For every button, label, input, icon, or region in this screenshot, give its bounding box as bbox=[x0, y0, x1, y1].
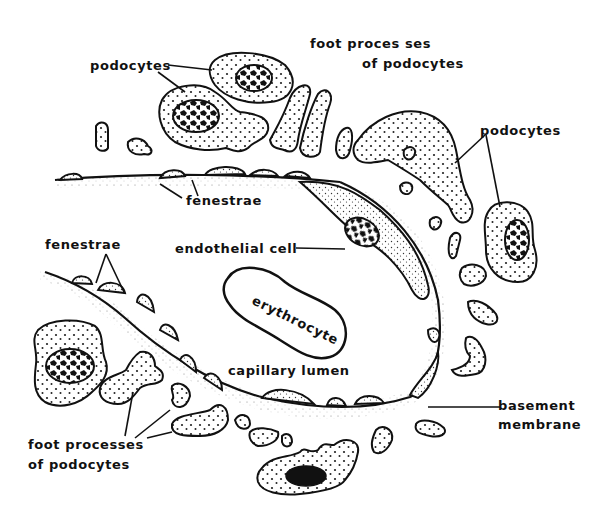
podocyte-bottom bbox=[257, 440, 358, 494]
label-foot-processes-bottom-1: foot processes bbox=[28, 437, 144, 452]
label-endothelial-cell: endothelial cell bbox=[175, 241, 297, 256]
label-podocytes-right: podocytes bbox=[480, 123, 561, 138]
label-fenestrae-left: fenestrae bbox=[45, 237, 121, 252]
label-capillary-lumen: capillary lumen bbox=[228, 363, 350, 378]
label-foot-processes-bottom-2: of podocytes bbox=[28, 457, 130, 472]
label-foot-processes-top-1: foot proces ses bbox=[310, 36, 431, 51]
label-podocytes-top: podocytes bbox=[90, 58, 171, 73]
label-basement-2: membrane bbox=[498, 417, 581, 432]
label-basement-1: basement bbox=[498, 398, 575, 413]
podocyte-right bbox=[485, 202, 537, 282]
label-foot-processes-top-2: of podocytes bbox=[362, 56, 464, 71]
podocyte-left bbox=[34, 320, 107, 405]
podocyte-top-center bbox=[210, 53, 293, 103]
label-fenestrae-top: fenestrae bbox=[186, 193, 262, 208]
